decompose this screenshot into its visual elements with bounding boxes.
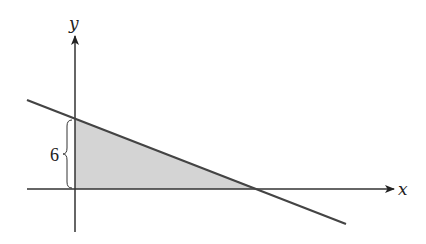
intercept-brace — [63, 120, 72, 188]
y-axis-label: y — [68, 13, 79, 33]
intercept-label: 6 — [50, 145, 59, 165]
x-axis-label: x — [398, 179, 408, 199]
coordinate-diagram: 6 x y — [0, 0, 426, 244]
